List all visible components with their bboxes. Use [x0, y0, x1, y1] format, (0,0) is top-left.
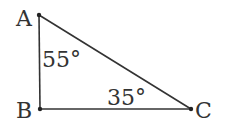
vertex-a-label: A [15, 6, 33, 31]
vertex-b-dot [38, 107, 42, 111]
vertex-c-dot [189, 107, 193, 111]
angle-a-label: 55° [42, 47, 81, 72]
triangle-diagram: A B C 55° 35° [0, 0, 226, 130]
side-ab [39, 15, 40, 109]
vertex-c-label: C [195, 98, 212, 123]
angle-c-label: 35° [107, 85, 146, 110]
vertex-a-dot [37, 13, 41, 17]
vertex-b-label: B [16, 98, 32, 123]
